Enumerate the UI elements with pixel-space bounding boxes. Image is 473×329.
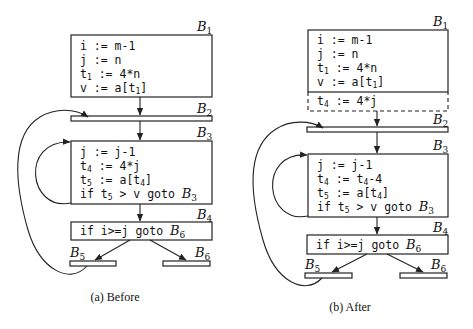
code-line: j := n bbox=[317, 47, 359, 61]
block-b6: B6 bbox=[163, 245, 211, 266]
inserted-code-line: t4 := 4*j bbox=[317, 94, 377, 109]
flow-graph-figure: B1 i := m-1 j := n t1 := 4*n v := a[t1] … bbox=[0, 0, 473, 329]
block-b5-box bbox=[70, 261, 116, 266]
code-line: j := j-1 bbox=[80, 145, 135, 159]
block-b2: B2 bbox=[71, 101, 212, 121]
block-b4-label: B4 bbox=[196, 207, 213, 224]
block-b6: B6 bbox=[400, 257, 447, 278]
block-b4: B4 if i>=j goto B6 bbox=[307, 220, 449, 254]
block-b4: B4 if i>=j goto B6 bbox=[71, 207, 213, 240]
block-b5: B5 bbox=[69, 245, 116, 266]
block-b2-box bbox=[71, 116, 212, 121]
block-b3-label: B3 bbox=[432, 138, 449, 155]
block-b2-label: B2 bbox=[432, 112, 448, 129]
block-b1: B1 i := m-1 j := n t1 := 4*n v := a[t1] bbox=[71, 19, 212, 97]
block-b5: B5 bbox=[304, 257, 352, 278]
block-b2: B2 bbox=[307, 112, 448, 132]
block-b6-label: B6 bbox=[430, 257, 447, 274]
block-b3: B3 j := j-1 t4 := t4-4 t5 := a[t4] if t5… bbox=[308, 138, 449, 217]
code-line: i := m-1 bbox=[80, 39, 135, 53]
code-line: i := m-1 bbox=[317, 33, 372, 47]
block-b5-label: B5 bbox=[69, 245, 86, 262]
block-b6-label: B6 bbox=[194, 245, 211, 262]
edge-b3-self-loop bbox=[273, 155, 308, 217]
code-line: if i>=j goto B6 bbox=[316, 237, 422, 254]
edge-b4-b6 bbox=[150, 240, 186, 260]
before-diagram: B1 i := m-1 j := n t1 := 4*n v := a[t1] … bbox=[18, 19, 213, 304]
after-diagram: B1 i := m-1 j := n t1 := 4*n v := a[t1] … bbox=[253, 14, 448, 314]
block-b3-label: B3 bbox=[196, 125, 213, 142]
block-b5-label: B5 bbox=[304, 257, 321, 274]
edge-b4-b5 bbox=[95, 240, 130, 260]
code-line: if t5 > v goto B3 bbox=[80, 186, 197, 203]
block-b3: B3 j := j-1 t4 := 4*j t5 := a[t4] if t5 … bbox=[71, 125, 213, 204]
edge-b3-self-loop bbox=[36, 142, 71, 204]
code-line: j := j-1 bbox=[317, 158, 372, 172]
block-b1: B1 i := m-1 j := n t1 := 4*n v := a[t1] … bbox=[308, 14, 448, 111]
caption-after: (b) After bbox=[329, 300, 371, 314]
block-b2-label: B2 bbox=[196, 101, 212, 118]
block-b5-box bbox=[305, 273, 352, 278]
block-b6-box bbox=[163, 261, 210, 266]
edge-b4-b5 bbox=[332, 254, 367, 272]
block-b1-label: B1 bbox=[432, 14, 448, 31]
code-line: if i>=j goto B6 bbox=[80, 223, 186, 240]
block-b2-box bbox=[307, 127, 448, 132]
caption-before: (a) Before bbox=[91, 290, 140, 304]
code-line: j := n bbox=[80, 53, 122, 67]
code-line: if t5 > v goto B3 bbox=[317, 199, 434, 216]
block-b4-label: B4 bbox=[432, 220, 449, 237]
block-b1-label: B1 bbox=[196, 19, 212, 36]
edge-b4-b6 bbox=[387, 254, 423, 272]
